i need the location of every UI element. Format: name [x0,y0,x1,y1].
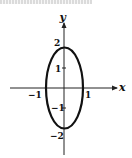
y-axis-label: y [59,11,68,24]
ellipse-figure: y x 2 1 −1 −2 −1 1 [0,0,132,158]
y-tick-label-1: 1 [55,64,61,74]
x-axis-label: x [118,81,126,94]
cropped-caption-text [0,0,92,4]
x-tick-label-neg1: −1 [28,90,42,100]
y-tick-label-2: 2 [54,38,60,48]
graph-canvas: y x 2 1 −1 −2 −1 1 [0,0,132,158]
y-tick-label-neg2: −2 [50,131,64,141]
y-tick-label-neg1: −1 [51,103,65,113]
x-tick-label-1: 1 [85,90,91,100]
